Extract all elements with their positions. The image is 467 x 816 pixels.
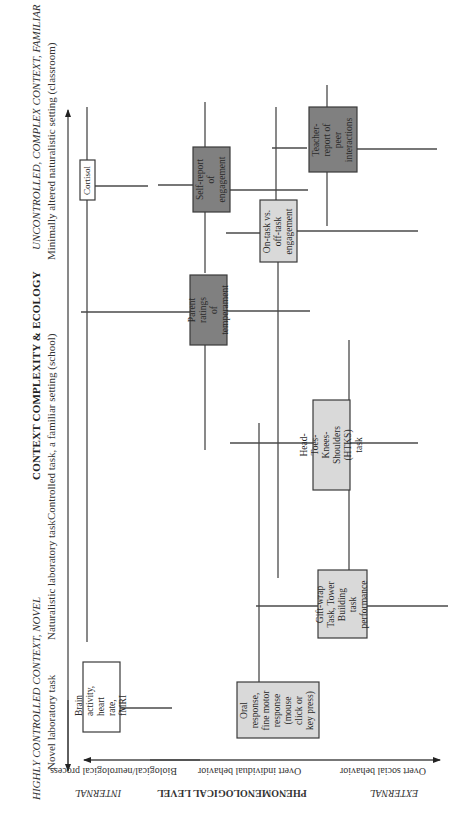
box-ontask-label: On-task vs. off-task engagement: [260, 200, 297, 262]
box-teacher-label: Teacher- report of peer interactions: [309, 107, 357, 172]
context-low-end: HIGHLY CONTROLLED CONTEXT, NOVEL: [30, 597, 42, 800]
context-level-minimal: Minimally altered naturalistic setting (…: [45, 43, 57, 261]
context-axis-title: CONTEXT COMPLEXITY & ECOLOGY: [30, 271, 42, 480]
selfreport-text: Self-report of engagement: [195, 157, 228, 203]
context-level-naturalistic: Naturalistic laboratory task: [45, 520, 57, 640]
context-level-novel: Novel laboratory task: [45, 675, 57, 770]
box-cortisol-label: Cortisol: [80, 160, 95, 200]
context-level-controlled: Controlled task, a familiar setting (sch…: [45, 334, 57, 520]
diagram-canvas: [0, 0, 467, 816]
oral-text: Oral response, fine motor response (mous…: [240, 690, 317, 730]
phen-axis-title: PHENOMENOLOGICAL LEVEL: [157, 788, 307, 799]
box-oral-label: Oral response, fine motor response (mous…: [237, 682, 319, 738]
teacher-text: Teacher- report of peer interactions: [311, 117, 355, 161]
context-high-end: UNCONTROLLED, COMPLEX CONTEXT, FAMILIAR: [30, 4, 42, 250]
box-giftwrap-label: Gift-wrap Task, Tower Building task perf…: [318, 570, 367, 638]
phen-level-social: Overt social behavior: [340, 766, 426, 777]
box-selfreport-label: Self-report of engagement: [193, 147, 230, 212]
brain-text: Brain activity, heart rate, fMRI: [74, 679, 129, 716]
parent-text: Parent ratings of temperament: [187, 285, 231, 335]
phen-level-biological: Biological/neurological process: [50, 766, 177, 777]
box-htks-label: Head-Toes- Knees-Shoulders (HTKS) task: [313, 400, 350, 490]
phen-low-end: INTERNAL: [75, 788, 121, 799]
box-parent-label: Parent ratings of temperament: [190, 275, 227, 345]
htks-text: Head-Toes- Knees-Shoulders (HTKS) task: [299, 426, 365, 464]
phen-level-individual: Overt individual behavior: [198, 766, 301, 777]
phen-high-end: EXTERNAL: [370, 788, 418, 799]
ontask-text: On-task vs. off-task engagement: [262, 208, 295, 254]
giftwrap-text: Gift-wrap Task, Tower Building task perf…: [315, 580, 370, 629]
cortisol-text: Cortisol: [82, 165, 93, 194]
box-brain-label: Brain activity, heart rate, fMRI: [83, 662, 120, 732]
